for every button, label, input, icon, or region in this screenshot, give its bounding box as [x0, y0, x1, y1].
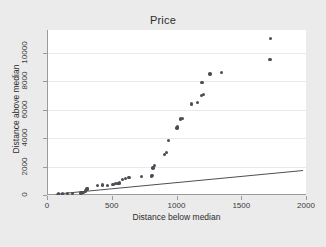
data-point	[220, 71, 223, 74]
x-tick-mark	[306, 196, 307, 200]
x-tick-mark	[241, 196, 242, 200]
data-point	[196, 101, 199, 104]
plot-area	[47, 30, 306, 195]
gridline	[48, 167, 307, 168]
x-tick-mark	[47, 196, 48, 200]
y-tick-mark	[43, 53, 47, 54]
x-tick-label: 1000	[157, 201, 197, 210]
y-tick-mark	[43, 138, 47, 139]
data-point	[61, 192, 64, 195]
x-axis-title: Distance below median	[47, 212, 306, 222]
data-point	[96, 184, 99, 187]
x-tick-mark	[112, 196, 113, 200]
plot-canvas	[48, 30, 307, 195]
x-tick-label: 1500	[221, 201, 261, 210]
x-tick-label: 0	[27, 201, 67, 210]
data-point	[208, 72, 211, 75]
data-point	[101, 183, 104, 186]
data-point	[167, 139, 170, 142]
data-point	[57, 192, 60, 195]
data-point	[151, 174, 154, 177]
data-point	[176, 125, 179, 128]
data-point	[190, 102, 193, 105]
data-point	[200, 81, 203, 84]
data-point	[268, 58, 271, 61]
data-point	[127, 176, 130, 179]
data-point	[181, 117, 184, 120]
data-point	[202, 93, 205, 96]
y-tick-mark	[43, 167, 47, 168]
data-point	[140, 175, 143, 178]
chart-title: Price	[0, 14, 326, 26]
y-axis-title: Distance above median	[11, 49, 21, 169]
x-tick-label: 2000	[286, 201, 326, 210]
gridline	[48, 110, 307, 111]
gridline	[48, 53, 307, 54]
data-point	[86, 187, 89, 190]
chart-figure: Price 0200040006000800010000 05001000150…	[0, 0, 326, 247]
x-tick-label: 500	[92, 201, 132, 210]
y-tick-mark	[43, 81, 47, 82]
y-tick-mark	[43, 110, 47, 111]
reference-line	[48, 30, 307, 195]
data-point	[269, 37, 272, 40]
x-tick-mark	[177, 196, 178, 200]
data-point	[165, 151, 168, 154]
data-point	[118, 181, 121, 184]
data-point	[106, 184, 109, 187]
gridline	[48, 138, 307, 139]
gridline	[48, 81, 307, 82]
